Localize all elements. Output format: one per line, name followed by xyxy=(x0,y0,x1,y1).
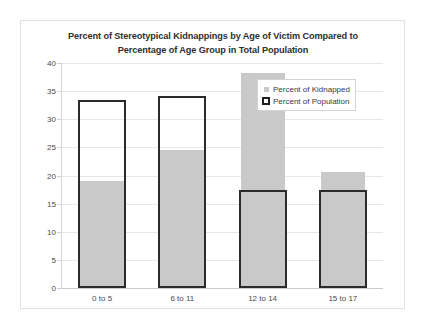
legend-label-population: Percent of Population xyxy=(273,97,350,106)
legend-item-population: Percent of Population xyxy=(262,95,350,107)
y-axis-tick-label: 20 xyxy=(30,171,56,180)
x-axis-tick-label: 0 to 5 xyxy=(62,294,142,303)
x-axis-tick-label: 12 to 14 xyxy=(223,294,303,303)
y-axis-tickmark xyxy=(57,232,61,233)
y-axis-tick-label: 0 xyxy=(30,284,56,293)
bar-group[interactable] xyxy=(76,63,128,288)
y-axis-tickmark xyxy=(57,63,61,64)
y-axis-tick-label: 35 xyxy=(30,87,56,96)
chart-title-line-1: Percent of Stereotypical Kidnappings by … xyxy=(35,29,391,43)
y-axis-tick-label: 5 xyxy=(30,255,56,264)
bar-group[interactable] xyxy=(156,63,208,288)
y-axis-tickmark xyxy=(57,147,61,148)
chart-frame: Percent of Stereotypical Kidnappings by … xyxy=(20,20,405,309)
legend-swatch-population-icon xyxy=(262,97,270,105)
bar-population[interactable] xyxy=(158,96,206,288)
bar-population[interactable] xyxy=(239,190,287,288)
y-axis-tick-label: 25 xyxy=(30,143,56,152)
y-axis-tickmark xyxy=(57,119,61,120)
gridline xyxy=(62,288,383,289)
x-axis-tick-label: 6 to 11 xyxy=(142,294,222,303)
y-axis-tick-labels: 4035302520151050 xyxy=(26,63,56,288)
chart-title: Percent of Stereotypical Kidnappings by … xyxy=(35,29,391,57)
legend-item-kidnapped: Percent of Kidnapped xyxy=(262,83,350,95)
y-axis-tick-label: 10 xyxy=(30,227,56,236)
y-axis-tickmark xyxy=(57,288,61,289)
y-axis-tick-label: 40 xyxy=(30,59,56,68)
bar-population[interactable] xyxy=(78,100,126,288)
y-axis-tick-label: 15 xyxy=(30,199,56,208)
bar-population[interactable] xyxy=(319,190,367,288)
y-axis-tickmark xyxy=(57,260,61,261)
legend-label-kidnapped: Percent of Kidnapped xyxy=(273,85,350,94)
y-axis-tickmark xyxy=(57,204,61,205)
x-axis-tick-label: 15 to 17 xyxy=(303,294,383,303)
chart-title-line-2: Percentage of Age Group in Total Populat… xyxy=(35,43,391,57)
y-axis-tick-label: 30 xyxy=(30,115,56,124)
y-axis-tickmark xyxy=(57,176,61,177)
legend-swatch-kidnapped-icon xyxy=(264,87,269,92)
chart-legend: Percent of Kidnapped Percent of Populati… xyxy=(257,79,356,111)
y-axis-tickmark xyxy=(57,91,61,92)
